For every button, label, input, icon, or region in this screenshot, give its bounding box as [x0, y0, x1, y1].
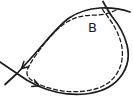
curve-diagram: B [0, 0, 133, 105]
dashed-orbit-curve [27, 9, 122, 92]
outer-solid-curve [5, 8, 130, 85]
curve-label-B: B [88, 20, 97, 35]
return-solid-curve [0, 2, 128, 95]
